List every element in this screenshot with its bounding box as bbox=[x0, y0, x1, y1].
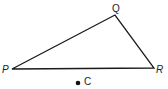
label-c: C bbox=[84, 76, 91, 87]
triangle-pqr bbox=[12, 15, 154, 69]
label-p: P bbox=[2, 64, 9, 75]
label-r: R bbox=[156, 64, 163, 75]
triangle-diagram: P Q R C bbox=[0, 0, 168, 89]
label-q: Q bbox=[112, 3, 120, 14]
point-c bbox=[76, 81, 81, 86]
